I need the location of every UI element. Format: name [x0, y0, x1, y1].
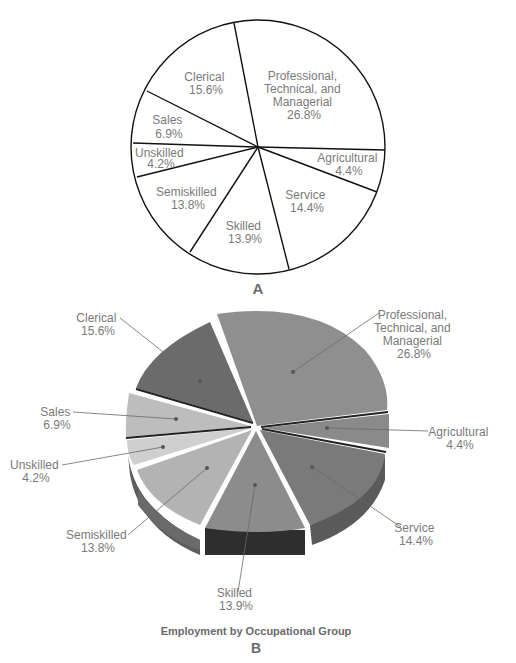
pie-b-label-professional: Professional, Technical, and Managerial … — [374, 308, 454, 361]
pie-b-label-skilled: Skilled 13.9% — [217, 586, 256, 613]
pie-a-label-service: Service 14.4% — [285, 188, 328, 215]
pie-a-label-skilled: Skilled 13.9% — [226, 219, 265, 246]
pie-b-label-sales: Sales 6.9% — [40, 405, 73, 432]
pie-b-label-semiskilled: Semiskilled 13.8% — [66, 528, 130, 555]
chart-b-title: Employment by Occupational Group — [161, 625, 352, 637]
pie-b-label-service: Service 14.4% — [394, 521, 437, 548]
panel-a-caption: A — [253, 280, 264, 297]
pie-chart-b: Clerical 15.6% Professional, Technical, … — [10, 308, 492, 656]
pie-b-label-agricultural: Agricultural 4.4% — [428, 425, 491, 452]
pie-chart-a: Professional, Technical, and Managerial … — [131, 20, 385, 297]
pie-b-slices — [126, 311, 389, 532]
pie-b-label-unskilled: Unskilled 4.2% — [10, 458, 62, 485]
pie-a-label-clerical: Clerical 15.6% — [184, 70, 227, 97]
panel-b-caption: B — [251, 640, 261, 656]
charts-canvas: Professional, Technical, and Managerial … — [0, 0, 516, 663]
pie-b-label-clerical: Clerical 15.6% — [76, 311, 119, 338]
pie-a-label-sales: Sales 6.9% — [152, 113, 185, 141]
